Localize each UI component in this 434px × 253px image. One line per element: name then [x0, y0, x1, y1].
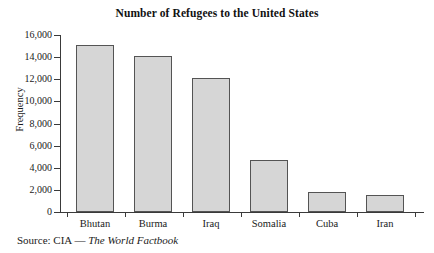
- x-tick-mark: [415, 212, 416, 217]
- y-tick-mark: [54, 101, 60, 102]
- x-tick-mark: [183, 212, 184, 217]
- x-tick-mark: [125, 212, 126, 217]
- chart-title: Number of Refugees to the United States: [0, 7, 434, 19]
- y-tick-mark: [54, 146, 60, 147]
- y-tick-mark: [54, 212, 60, 213]
- x-axis-line: [60, 212, 424, 213]
- source-caption: Source: CIA — The World Factbook: [17, 234, 178, 247]
- y-tick-mark: [54, 124, 60, 125]
- y-tick-label: 16,000: [0, 30, 52, 40]
- y-tick-mark: [54, 57, 60, 58]
- y-tick-mark: [54, 190, 60, 191]
- y-tick-mark: [54, 79, 60, 80]
- bar-iran: [366, 195, 404, 212]
- y-tick-label: 10,000: [0, 96, 52, 106]
- y-tick-label: 4,000: [0, 163, 52, 173]
- bar-bhutan: [76, 45, 114, 212]
- y-tick-label: 8,000: [0, 119, 52, 129]
- x-label-iran: Iran: [345, 218, 425, 230]
- source-prefix: Source: CIA —: [17, 234, 88, 246]
- x-tick-mark: [67, 212, 68, 217]
- bar-chart-figure: Number of Refugees to the United States …: [0, 0, 434, 253]
- bar-somalia: [250, 160, 288, 212]
- x-tick-mark: [299, 212, 300, 217]
- y-tick-mark: [54, 168, 60, 169]
- y-tick-label: 12,000: [0, 74, 52, 84]
- y-tick-label: 0: [0, 207, 52, 217]
- bar-burma: [134, 56, 172, 212]
- bar-iraq: [192, 78, 230, 212]
- y-axis-line: [60, 35, 61, 213]
- source-title: The World Factbook: [88, 234, 178, 246]
- y-tick-label: 6,000: [0, 141, 52, 151]
- y-tick-label: 14,000: [0, 52, 52, 62]
- y-tick-mark: [54, 35, 60, 36]
- x-tick-mark: [241, 212, 242, 217]
- bar-cuba: [308, 192, 346, 212]
- y-tick-label: 2,000: [0, 185, 52, 195]
- x-tick-mark: [357, 212, 358, 217]
